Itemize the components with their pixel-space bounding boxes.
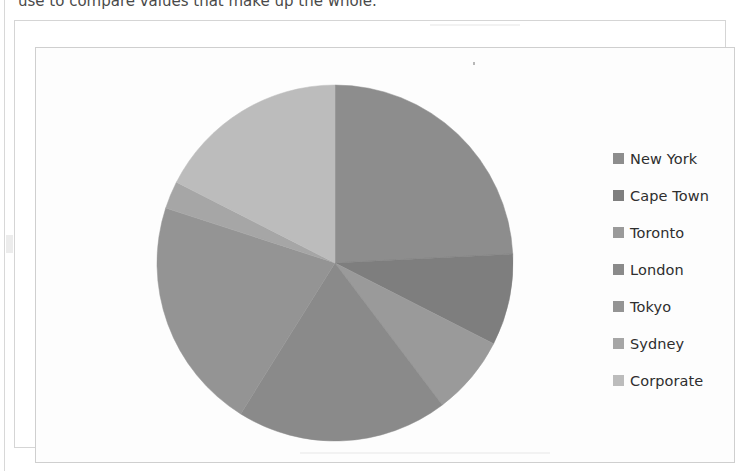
legend-item-label: Corporate <box>630 373 703 389</box>
legend-item-toronto[interactable]: Toronto <box>613 214 743 251</box>
legend-item-new-york[interactable]: New York <box>613 140 743 177</box>
legend-item-label: New York <box>630 151 697 167</box>
legend-swatch-icon <box>613 338 624 349</box>
page-caption-text: use to compare values that make up the w… <box>18 0 658 9</box>
legend-swatch-icon <box>613 227 624 238</box>
scan-speck <box>473 62 475 65</box>
legend-item-label: Tokyo <box>630 299 671 315</box>
legend-item-cape-town[interactable]: Cape Town <box>613 177 743 214</box>
pie-chart-svg[interactable] <box>39 51 579 451</box>
pie-slice-new-york[interactable] <box>335 85 513 263</box>
legend-swatch-icon <box>613 375 624 386</box>
legend-swatch-icon <box>613 301 624 312</box>
pie-slice-group <box>157 85 513 441</box>
legend-item-sydney[interactable]: Sydney <box>613 325 743 362</box>
chart-object-outer-frame[interactable]: New YorkCape TownTorontoLondonTokyoSydne… <box>14 20 726 448</box>
legend-item-corporate[interactable]: Corporate <box>613 362 743 399</box>
legend-swatch-icon <box>613 264 624 275</box>
page-margin-rule <box>4 0 5 471</box>
legend-item-label: Cape Town <box>630 188 709 204</box>
legend-item-london[interactable]: London <box>613 251 743 288</box>
scan-artifact-top <box>430 24 520 26</box>
legend-item-label: Sydney <box>630 336 684 352</box>
legend-item-tokyo[interactable]: Tokyo <box>613 288 743 325</box>
legend-swatch-icon <box>613 153 624 164</box>
legend-item-label: London <box>630 262 684 278</box>
legend-swatch-icon <box>613 190 624 201</box>
scan-artifact-left <box>6 235 13 253</box>
scan-artifact-bottom <box>300 452 550 454</box>
chart-legend[interactable]: New YorkCape TownTorontoLondonTokyoSydne… <box>613 140 743 399</box>
legend-item-label: Toronto <box>630 225 684 241</box>
